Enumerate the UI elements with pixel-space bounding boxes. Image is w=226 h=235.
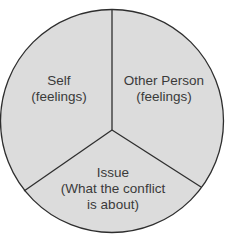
segment-other-person-subtitle: (feelings) <box>118 89 210 105</box>
segment-other-person-title: Other Person <box>118 73 210 89</box>
segment-self-label: Self (feelings) <box>22 73 96 105</box>
segment-issue-title: Issue <box>52 165 174 181</box>
segment-issue-label: Issue (What the conflict is about) <box>52 165 174 213</box>
segment-self-subtitle: (feelings) <box>22 89 96 105</box>
segment-self-title: Self <box>22 73 96 89</box>
segment-issue-subtitle: (What the conflict <box>52 181 174 197</box>
segment-issue-subtitle-2: is about) <box>52 197 174 213</box>
segment-other-person-label: Other Person (feelings) <box>118 73 210 105</box>
